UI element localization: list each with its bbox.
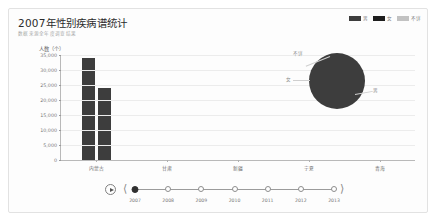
y-tick-label: 35,000 bbox=[40, 53, 57, 58]
legend-swatch-icon bbox=[349, 16, 361, 21]
legend-item[interactable]: 男 bbox=[349, 15, 368, 21]
y-tick-mark bbox=[59, 130, 61, 131]
y-tick-label: 10,000 bbox=[40, 128, 57, 133]
legend-swatch-icon bbox=[397, 16, 409, 21]
timeline-year-label[interactable]: 2011 bbox=[262, 198, 274, 203]
x-tick-label: 内蒙古 bbox=[89, 164, 104, 171]
x-tick-label: 甘肃 bbox=[162, 164, 172, 171]
card-header: 2007年性别疾病谱统计 数据来源全年度调查结果 男女不详 bbox=[9, 9, 427, 43]
y-tick-label: 15,000 bbox=[40, 113, 57, 118]
legend-item[interactable]: 不详 bbox=[397, 15, 421, 21]
timeline-node[interactable] bbox=[331, 186, 337, 192]
x-tick-mark bbox=[380, 160, 381, 162]
timeline-year-label[interactable]: 2008 bbox=[162, 198, 174, 203]
x-tick-label: 宁夏 bbox=[304, 164, 314, 171]
y-tick-mark bbox=[59, 100, 61, 101]
y-tick-label: 0 bbox=[54, 158, 57, 163]
x-tick-mark bbox=[167, 160, 168, 162]
x-tick-label: 青海 bbox=[375, 164, 385, 171]
play-icon[interactable] bbox=[105, 184, 116, 195]
y-tick-mark bbox=[59, 160, 61, 161]
page-title: 2007年性别疾病谱统计 bbox=[18, 15, 127, 30]
y-tick-mark bbox=[59, 70, 61, 71]
pie-leader-left bbox=[293, 80, 310, 81]
bar[interactable] bbox=[98, 88, 111, 160]
pie-label-right: 男 bbox=[373, 87, 378, 93]
gridline bbox=[61, 145, 415, 146]
gridline bbox=[61, 115, 415, 116]
y-tick-label: 30,000 bbox=[40, 68, 57, 73]
legend-swatch-icon bbox=[373, 16, 385, 21]
legend-label: 男 bbox=[363, 15, 368, 21]
timeline-node[interactable] bbox=[165, 186, 171, 192]
x-tick-mark bbox=[238, 160, 239, 162]
timeline-node[interactable] bbox=[265, 186, 271, 192]
timeline-year-label[interactable]: 2010 bbox=[229, 198, 241, 203]
y-axis-unit-label: 人数（个） bbox=[39, 45, 64, 52]
timeline-year-label[interactable]: 2007 bbox=[129, 198, 141, 203]
legend-label: 不详 bbox=[411, 15, 421, 21]
y-tick-label: 20,000 bbox=[40, 98, 57, 103]
y-tick-label: 25,000 bbox=[40, 83, 57, 88]
timeline-year-label[interactable]: 2013 bbox=[328, 198, 340, 203]
timeline-track[interactable]: 2007200820092010201120122013 bbox=[135, 189, 334, 190]
chart-card: 2007年性别疾病谱统计 数据来源全年度调查结果 男女不详 人数（个） 35,0… bbox=[8, 8, 428, 213]
y-tick-label: 5,000 bbox=[43, 143, 57, 148]
timeline-control: ⟨ ⟩ 2007200820092010201120122013 bbox=[9, 178, 427, 208]
chevron-left-icon[interactable]: ⟨ bbox=[123, 183, 127, 194]
y-tick-mark bbox=[59, 115, 61, 116]
timeline-node[interactable] bbox=[232, 186, 238, 192]
y-tick-mark bbox=[59, 85, 61, 86]
timeline-year-label[interactable]: 2009 bbox=[195, 198, 207, 203]
pie-label-top: 不详 bbox=[293, 50, 303, 56]
y-tick-mark bbox=[59, 55, 61, 56]
timeline-node[interactable] bbox=[198, 186, 204, 192]
page-subtitle: 数据来源全年度调查结果 bbox=[18, 30, 76, 36]
legend-label: 女 bbox=[387, 15, 392, 21]
chevron-right-icon[interactable]: ⟩ bbox=[340, 183, 344, 194]
timeline-node[interactable] bbox=[298, 186, 304, 192]
x-tick-mark bbox=[96, 160, 97, 162]
gridline bbox=[61, 130, 415, 131]
x-tick-mark bbox=[309, 160, 310, 162]
x-tick-label: 新疆 bbox=[233, 164, 243, 171]
play-triangle-icon bbox=[110, 188, 114, 192]
chart-legend: 男女不详 bbox=[349, 15, 421, 21]
y-tick-mark bbox=[59, 145, 61, 146]
timeline-year-label[interactable]: 2012 bbox=[295, 198, 307, 203]
pie-chart: 不详 女 男 bbox=[309, 53, 365, 109]
pie-label-left: 女 bbox=[286, 76, 291, 82]
timeline-node[interactable] bbox=[132, 186, 139, 193]
legend-item[interactable]: 女 bbox=[373, 15, 392, 21]
